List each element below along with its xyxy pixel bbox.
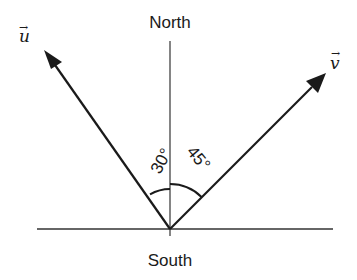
vector-v-label: v →: [330, 47, 340, 73]
angle-arc-v: [170, 184, 202, 197]
vector-u-arrow-accent-icon: →: [19, 21, 28, 34]
north-label: North: [149, 13, 191, 32]
vector-u: [44, 50, 170, 229]
angle-label-u: 30°: [147, 145, 176, 177]
vector-u-label: u →: [19, 21, 30, 46]
south-label: South: [148, 251, 192, 270]
angle-arc-u: [150, 189, 170, 194]
vector-u-shaft: [55, 65, 170, 229]
angle-label-v: 45°: [183, 142, 214, 174]
vector-diagram: North 30° 45° u → v → South: [0, 0, 357, 280]
vector-u-arrowhead-icon: [44, 50, 62, 69]
vector-v-arrow-accent-icon: →: [331, 47, 340, 60]
